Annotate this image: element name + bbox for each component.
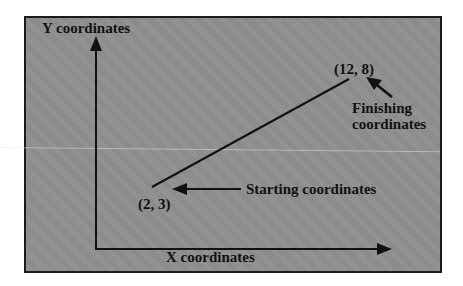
- start-point-label: (2, 3): [138, 197, 171, 212]
- starting-coordinates-label: Starting coordinates: [246, 182, 376, 197]
- x-axis-label: X coordinates: [166, 250, 255, 265]
- diagram-canvas: [0, 0, 463, 286]
- finishing-label-line2: coordinates: [352, 117, 426, 132]
- end-point-label: (12, 8): [334, 62, 374, 77]
- x-axis-arrowhead-icon: [377, 243, 392, 255]
- y-axis-arrowhead-icon: [90, 36, 102, 51]
- y-axis: [90, 36, 102, 250]
- starting-pointer-arrow: [172, 183, 241, 195]
- starting-arrowhead-icon: [172, 183, 187, 195]
- finishing-pointer-arrow: [366, 77, 392, 97]
- y-axis-label: Y coordinates: [42, 21, 130, 36]
- coordinate-line: [152, 79, 349, 187]
- finishing-label-line1: Finishing: [352, 101, 412, 116]
